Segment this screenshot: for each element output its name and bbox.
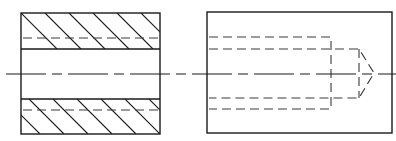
hatch-bottom [0, 99, 184, 134]
external-outline [207, 12, 392, 133]
external-view [207, 12, 392, 133]
hatch-top [0, 13, 177, 49]
technical-drawing [0, 0, 396, 141]
